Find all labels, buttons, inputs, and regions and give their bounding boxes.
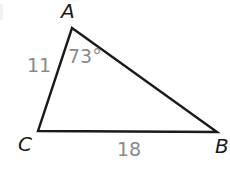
vertex-label-c: C: [18, 134, 32, 154]
triangle-shape: [0, 0, 230, 170]
vertex-label-a: A: [61, 1, 75, 21]
angle-measure-label-a: 73°: [68, 47, 102, 66]
side-length-label-cb: 18: [117, 140, 141, 159]
vertex-label-b: B: [215, 136, 229, 156]
side-length-label-ac: 11: [27, 56, 51, 75]
triangle-figure: A B C 11 18 73°: [0, 0, 230, 170]
triangle-outline: [38, 28, 217, 132]
